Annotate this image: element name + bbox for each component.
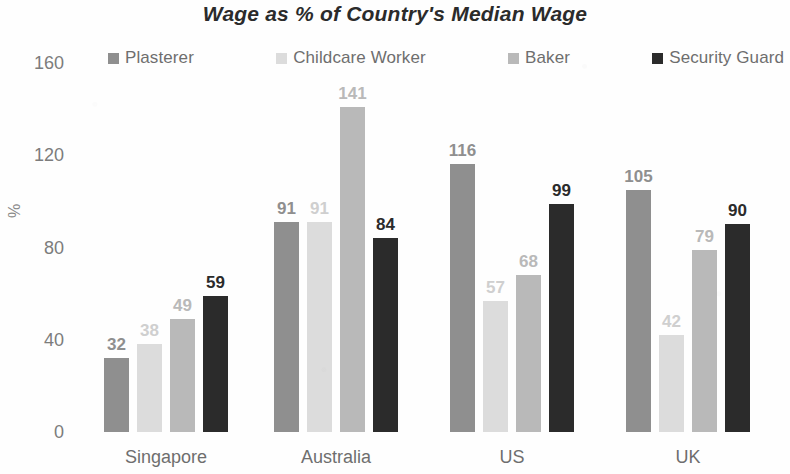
bar[interactable]	[373, 238, 398, 432]
bar-slot: 59	[203, 62, 228, 432]
bar-slot: 105	[626, 62, 651, 432]
bar-value-label: 79	[695, 227, 714, 247]
x-axis-category-label: US	[450, 447, 574, 468]
bar-group: 116576899US	[450, 62, 574, 432]
bar-slot: 57	[483, 62, 508, 432]
x-axis-category-label: UK	[626, 447, 750, 468]
bar-slot: 32	[104, 62, 129, 432]
bar-slot: 79	[692, 62, 717, 432]
bar[interactable]	[340, 107, 365, 432]
bar-slot: 38	[137, 62, 162, 432]
bar[interactable]	[549, 204, 574, 432]
bar-group: 105427990UK	[626, 62, 750, 432]
bar-slot: 91	[307, 62, 332, 432]
bar-value-label: 38	[140, 321, 159, 341]
bar-value-label: 116	[449, 141, 476, 161]
y-axis-tick-label: 160	[2, 53, 64, 74]
bar-value-label: 42	[662, 312, 681, 332]
bar-value-label: 32	[107, 335, 126, 355]
y-axis-tick-label: 80	[2, 237, 64, 258]
bar-value-label: 91	[277, 199, 296, 219]
bar-slot: 42	[659, 62, 684, 432]
bar-slot: 116	[450, 62, 475, 432]
bar[interactable]	[170, 319, 195, 432]
bar-slot: 141	[340, 62, 365, 432]
y-axis-tick-label: 120	[2, 145, 64, 166]
bar[interactable]	[450, 164, 475, 432]
x-axis-category-label: Singapore	[104, 447, 228, 468]
bar[interactable]	[307, 222, 332, 432]
bar-value-label: 59	[206, 273, 225, 293]
bar-value-label: 68	[519, 252, 538, 272]
bar[interactable]	[516, 275, 541, 432]
bar[interactable]	[137, 344, 162, 432]
bar[interactable]	[483, 301, 508, 432]
bar-value-label: 49	[173, 296, 192, 316]
bar-slot: 84	[373, 62, 398, 432]
bar-value-label: 90	[728, 201, 747, 221]
bar-slot: 68	[516, 62, 541, 432]
bar-slot: 91	[274, 62, 299, 432]
bar[interactable]	[104, 358, 129, 432]
bar-slot: 99	[549, 62, 574, 432]
y-axis-tick-label: 0	[2, 422, 64, 443]
y-axis-tick-label: 40	[2, 329, 64, 350]
bar[interactable]	[203, 296, 228, 432]
bar-value-label: 99	[552, 181, 571, 201]
bar[interactable]	[692, 250, 717, 432]
x-axis-category-label: Australia	[274, 447, 398, 468]
bar-group: 919114184Australia	[274, 62, 398, 432]
bar[interactable]	[274, 222, 299, 432]
bar-value-label: 91	[310, 199, 329, 219]
bar[interactable]	[626, 190, 651, 432]
bar-slot: 90	[725, 62, 750, 432]
plot-area: 32384959Singapore919114184Australia11657…	[78, 0, 790, 474]
y-axis: 04080120160	[0, 0, 64, 474]
bar[interactable]	[725, 224, 750, 432]
bar[interactable]	[659, 335, 684, 432]
bar-slot: 49	[170, 62, 195, 432]
chart-container: Wage as % of Country's Median Wage Plast…	[0, 0, 790, 474]
bar-value-label: 141	[338, 84, 366, 104]
bar-value-label: 105	[624, 167, 652, 187]
bar-group: 32384959Singapore	[104, 62, 228, 432]
bar-value-label: 84	[376, 215, 395, 235]
bar-value-label: 57	[486, 278, 505, 298]
